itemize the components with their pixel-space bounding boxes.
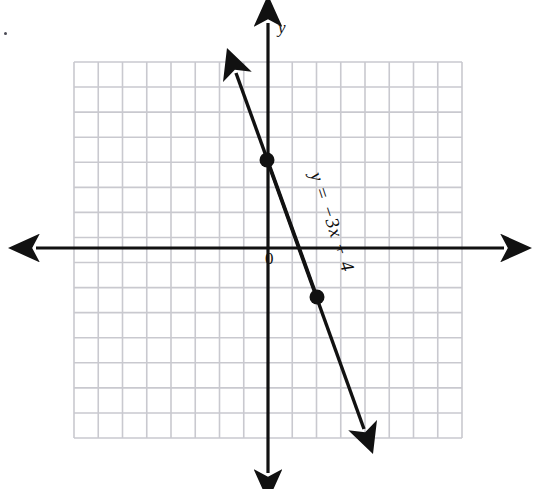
x-axis-label: x [514,238,522,258]
y-axis-label: y [278,18,286,38]
axes [36,23,504,473]
point-y-intercept [260,153,275,168]
coordinate-plane-svg [0,0,551,489]
origin-label: 0 [265,249,274,269]
graph-figure: x y 0 y = −3x + 4 [0,0,551,489]
point-second [310,290,325,305]
